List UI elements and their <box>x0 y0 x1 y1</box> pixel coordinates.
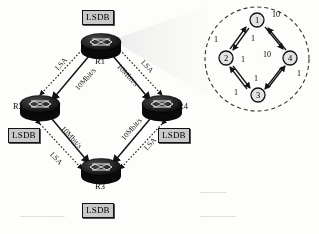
router-label-r1: R1 <box>95 56 105 66</box>
router-label-r4: R4 <box>178 101 188 111</box>
edge-weight-4-3-outer: 1 <box>297 69 301 78</box>
inset-edge-3-2 <box>230 67 247 89</box>
edge-weight-2-3-inner: 1 <box>241 55 245 64</box>
lsdb-box-r1[interactable]: LSDB <box>82 10 114 25</box>
inset-edge-1-4 <box>265 27 283 49</box>
topology-links <box>52 56 150 163</box>
inset-graph-nodes <box>219 13 297 102</box>
figure-canvas: 1 2 3 4 10 1 1 10 1 1 1 1 LSDB LSDB LSDB… <box>0 0 319 234</box>
edge-weight-1-2-inner: 1 <box>251 34 255 43</box>
router-icon-r2[interactable] <box>20 96 60 122</box>
edge-weight-2-1-outer: 1 <box>214 35 218 44</box>
router-label-r2: R2 <box>13 101 23 111</box>
diagram-svg: 1 2 3 4 10 1 1 10 1 1 1 1 <box>0 0 319 234</box>
bleed-through-text-2: 一一一一 <box>200 210 236 223</box>
inset-graph-edges <box>230 27 286 89</box>
lsdb-box-r2[interactable]: LSDB <box>8 128 40 143</box>
inset-edge-1-2 <box>233 28 249 50</box>
bleed-through-text-3: 一一一 <box>200 186 227 199</box>
magnifier-cone <box>112 6 208 96</box>
edge-weight-4-1-inner: 10 <box>263 50 271 59</box>
inset-edge-2-1 <box>230 27 246 49</box>
inset-edge-4-3 <box>265 67 282 89</box>
router-icon-r4[interactable] <box>142 96 182 122</box>
bleed-through-text-1: 一一一一一 <box>20 210 65 223</box>
router-label-r3: R3 <box>95 181 105 191</box>
edge-weight-1-4: 10 <box>272 10 280 19</box>
edge-weight-3-1-inner: 1 <box>254 74 258 83</box>
inset-node-label-1: 1 <box>255 15 259 25</box>
lsdb-box-r3[interactable]: LSDB <box>82 203 114 218</box>
inset-edge-4-1 <box>268 28 286 50</box>
inset-node-label-3: 3 <box>256 90 260 100</box>
edge-weight-2-3-outer: 1 <box>234 88 238 97</box>
inset-node-label-2: 2 <box>224 53 228 63</box>
inset-edge-2-3 <box>233 66 250 88</box>
inset-edge-3-4 <box>268 66 285 88</box>
lsdb-box-r4[interactable]: LSDB <box>158 128 190 143</box>
